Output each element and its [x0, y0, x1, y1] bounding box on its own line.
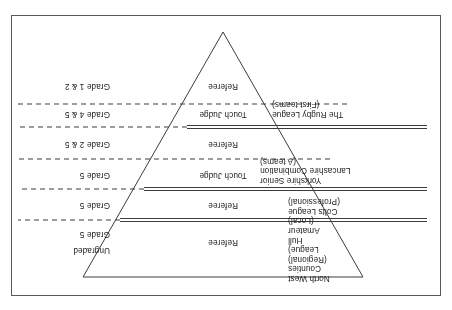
rotated-figure-container: North West Counties (Regional) League) H…: [0, 0, 452, 310]
right-label-ungraded: Ungraded: [10, 245, 110, 255]
right-label-grade-5-c: Grade 5: [10, 170, 110, 180]
center-label-touch-judge-1: Touch Judge: [143, 170, 303, 180]
center-label-referee-2: Referee: [143, 200, 303, 210]
figure-screenshot: North West Counties (Regional) League) H…: [0, 0, 452, 310]
right-label-grade-5-a: Grade 5: [10, 229, 110, 239]
center-label-referee-1: Referee: [143, 237, 303, 247]
left-label-colts-league: Colts League (Professional): [288, 197, 440, 216]
figure-border-frame: North West Counties (Regional) League) H…: [11, 15, 441, 296]
left-label-north-west-counties: North West Counties (Regional) League) H…: [288, 216, 440, 283]
right-label-grade-2-and-5: Grade 2 & 5: [10, 139, 110, 149]
center-label-touch-judge-2: Touch Judge: [143, 109, 303, 119]
center-label-referee-4: Referee: [143, 81, 303, 91]
right-label-grade-4-and-5: Grade 4 & 5: [10, 109, 110, 119]
center-label-referee-3: Referee: [143, 139, 303, 149]
right-label-grade-1-and-2: Grade 1 & 2: [10, 81, 110, 91]
right-label-grade-5-b: Grade 5: [10, 200, 110, 210]
